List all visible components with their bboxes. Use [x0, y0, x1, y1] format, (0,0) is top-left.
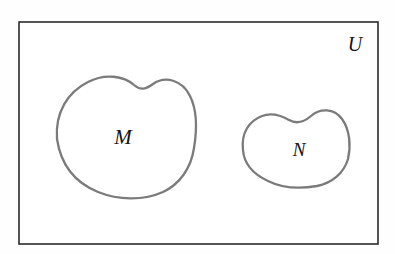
set-n-label: N	[292, 139, 307, 160]
venn-diagram-page: U M N	[0, 0, 395, 254]
set-m-label: M	[113, 125, 133, 149]
venn-diagram-canvas: U M N	[0, 0, 395, 254]
universal-set-label: U	[348, 33, 364, 55]
